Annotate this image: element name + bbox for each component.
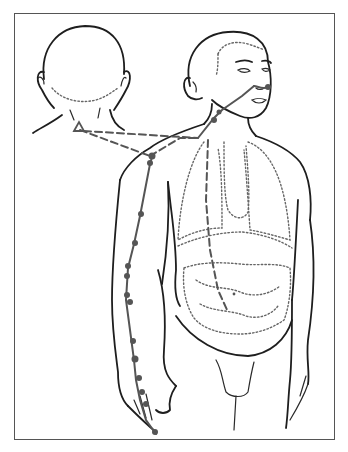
organs <box>178 142 292 334</box>
large-intestine <box>183 263 290 334</box>
c7-triangle-marker <box>74 122 84 131</box>
torso-outline <box>112 124 314 432</box>
meridian-diagram <box>0 0 348 452</box>
left-lung <box>178 142 222 240</box>
navel <box>233 293 236 296</box>
right-lung <box>244 142 290 240</box>
front-head <box>184 32 271 136</box>
back-head-view <box>33 26 130 133</box>
diaphragm <box>178 232 292 248</box>
